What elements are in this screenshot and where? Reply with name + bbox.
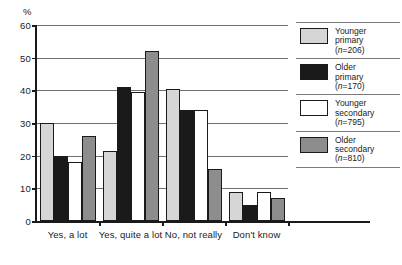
bar	[131, 92, 145, 221]
x-tick-mark	[99, 221, 101, 226]
bars-layer	[36, 25, 288, 221]
bar	[40, 123, 54, 221]
y-axis-unit-label: %	[23, 6, 31, 17]
bar-group	[166, 25, 222, 221]
legend-swatch	[300, 28, 328, 44]
bar-group	[40, 25, 96, 221]
y-tick-label-40: 40	[20, 85, 31, 96]
bar	[103, 151, 117, 221]
bar-group	[103, 25, 159, 221]
x-axis-group-label: Yes, quite a lot	[99, 229, 163, 240]
y-tick-label-0: 0	[26, 216, 31, 227]
y-tick-label-10: 10	[20, 183, 31, 194]
bar	[208, 169, 222, 221]
legend-row: Olderprimary(n=170)	[296, 58, 400, 94]
bar	[271, 198, 285, 221]
chart-legend: Youngerprimary(n=206)Olderprimary(n=170)…	[296, 22, 400, 168]
bar	[243, 205, 257, 221]
bar	[82, 136, 96, 221]
y-tick-label-60: 60	[20, 20, 31, 31]
legend-row: Youngerprimary(n=206)	[296, 22, 400, 58]
legend-label: Youngerprimary(n=206)	[335, 27, 366, 55]
x-axis-group-label: No, not really	[165, 229, 222, 240]
bar	[145, 51, 159, 221]
legend-label: Youngersecondary(n=795)	[335, 99, 374, 127]
x-tick-mark	[225, 221, 227, 226]
bar	[117, 87, 131, 221]
x-tick-mark	[162, 221, 164, 226]
bar	[194, 110, 208, 221]
bar	[229, 192, 243, 221]
legend-swatch	[300, 64, 328, 80]
legend-label: Olderprimary(n=170)	[335, 63, 365, 91]
y-tick-label-20: 20	[20, 150, 31, 161]
bar	[68, 162, 82, 221]
bar	[180, 110, 194, 221]
bar	[257, 192, 271, 221]
legend-row: Oldersecondary(n=810)	[296, 131, 400, 168]
x-axis-line	[35, 221, 370, 223]
x-axis-group-label: Don't know	[233, 229, 281, 240]
bar-group	[229, 25, 285, 221]
legend-swatch	[300, 137, 328, 153]
bar	[166, 89, 180, 221]
legend-swatch	[300, 100, 328, 116]
x-tick-mark	[288, 221, 290, 226]
y-tick-label-50: 50	[20, 52, 31, 63]
y-tick-label-30: 30	[20, 118, 31, 129]
legend-row: Youngersecondary(n=795)	[296, 94, 400, 130]
bar	[54, 156, 68, 221]
x-axis-group-label: Yes, a lot	[48, 229, 88, 240]
legend-label: Oldersecondary(n=810)	[335, 136, 374, 164]
bar-chart: % 0102030405060 Youngerprimary(n=206)Old…	[0, 0, 402, 265]
